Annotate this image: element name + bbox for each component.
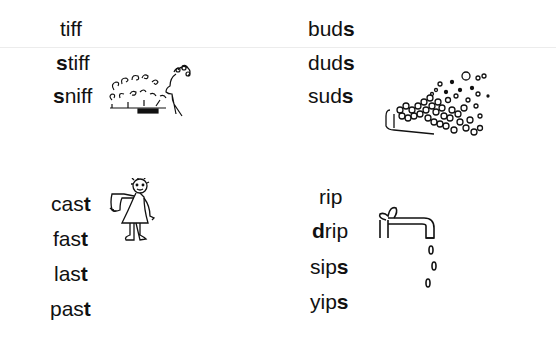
word-suffix: rip — [325, 219, 348, 242]
word-suffix: rip — [319, 185, 342, 208]
word-suds: suds — [308, 84, 354, 108]
word-bold-part: d — [312, 219, 325, 242]
word-last: last — [54, 262, 88, 286]
word-suffix: tiff — [68, 51, 90, 74]
word-bold-part: s — [337, 290, 349, 313]
word-suffix: tiff — [60, 17, 82, 40]
word-cast: cast — [51, 192, 91, 216]
word-suffix: niff — [65, 84, 93, 107]
word-bold-part: t — [81, 262, 88, 285]
word-fast: fast — [53, 227, 88, 251]
word-prefix: cas — [51, 192, 84, 215]
word-prefix: dud — [308, 51, 343, 74]
word-prefix: pas — [50, 297, 84, 320]
word-drip: drip — [312, 219, 348, 243]
word-rip: rip — [319, 185, 342, 209]
word-prefix: yip — [310, 290, 337, 313]
divider-line — [0, 47, 556, 48]
word-yips: yips — [310, 290, 349, 314]
word-duds: duds — [308, 51, 355, 75]
word-bold-part: t — [84, 297, 91, 320]
word-bold-part: t — [84, 192, 91, 215]
dripping-faucet-illustration — [374, 206, 440, 298]
word-bold-part: t — [81, 227, 88, 250]
word-prefix: las — [54, 262, 81, 285]
person-sniffing-flowers-illustration — [108, 62, 194, 122]
word-stiff: stiff — [56, 51, 89, 75]
word-bold-part: s — [343, 17, 355, 40]
girl-with-arm-cast-illustration — [108, 178, 164, 246]
word-sips: sips — [310, 255, 349, 279]
word-bold-part: s — [56, 51, 68, 74]
word-sniff: sniff — [53, 84, 92, 108]
word-bold-part: s — [342, 84, 354, 107]
word-buds: buds — [308, 17, 355, 41]
word-tiff: tiff — [60, 17, 82, 41]
word-prefix: bud — [308, 17, 343, 40]
word-past: past — [50, 297, 91, 321]
soap-suds-illustration — [380, 66, 490, 146]
word-bold-part: s — [337, 255, 349, 278]
word-prefix: fas — [53, 227, 81, 250]
word-bold-part: s — [53, 84, 65, 107]
word-prefix: sud — [308, 84, 342, 107]
word-bold-part: s — [343, 51, 355, 74]
word-prefix: sip — [310, 255, 337, 278]
